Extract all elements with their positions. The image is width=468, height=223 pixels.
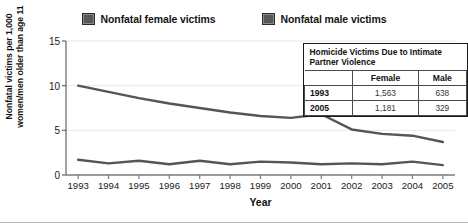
x-tick-label-2005: 2005	[432, 180, 453, 191]
x-tick-label-1994: 1994	[98, 180, 119, 191]
chart-legend: Nonfatal female victims Nonfatal male vi…	[0, 13, 468, 25]
table-row: 1993 1,563 638	[305, 86, 467, 101]
table-corner-cell	[305, 71, 353, 86]
x-tick-label-1995: 1995	[128, 180, 149, 191]
y-tick-label-15: 15	[49, 36, 60, 47]
x-tick-labels: 1993199419951996199719981999200020012002…	[66, 180, 455, 194]
table-cell-male-1993: 638	[418, 86, 466, 101]
x-axis-title: Year	[66, 196, 455, 208]
table-title-row: Homicide Victims Due to Intimate Partner…	[305, 44, 467, 71]
legend-item-female: Nonfatal female victims	[82, 13, 216, 25]
x-tick-label-2001: 2001	[311, 180, 332, 191]
x-tick-label-2004: 2004	[402, 180, 423, 191]
table-row-year-1993: 1993	[305, 86, 353, 101]
x-tick-label-2002: 2002	[341, 180, 362, 191]
inset-data-table: Homicide Victims Due to Intimate Partner…	[303, 43, 468, 117]
chart-figure: Nonfatal female victims Nonfatal male vi…	[0, 0, 468, 223]
legend-swatch-icon	[262, 13, 275, 25]
x-tick-label-2003: 2003	[371, 180, 392, 191]
table-col-male: Male	[418, 71, 466, 86]
legend-label-female: Nonfatal female victims	[101, 13, 216, 25]
table-col-female: Female	[353, 71, 418, 86]
series-line-male	[78, 160, 443, 165]
table-header-row: Female Male	[305, 71, 467, 86]
table-row-year-2005: 2005	[305, 101, 353, 116]
x-tick-label-1993: 1993	[67, 180, 88, 191]
table-title: Homicide Victims Due to Intimate Partner…	[305, 44, 467, 71]
legend-swatch-icon	[82, 13, 95, 25]
y-tick-label-0: 0	[54, 170, 60, 181]
y-axis-title: Nonfatal victims per 1,000 women/men old…	[4, 0, 25, 142]
x-tick-label-1999: 1999	[250, 180, 271, 191]
table-row: 2005 1,181 329	[305, 101, 467, 116]
legend-item-male: Nonfatal male victims	[262, 13, 387, 25]
homicide-victims-table: Homicide Victims Due to Intimate Partner…	[304, 44, 467, 116]
x-tick-label-2000: 2000	[280, 180, 301, 191]
table-cell-female-2005: 1,181	[353, 101, 418, 116]
x-tick-label-1997: 1997	[189, 180, 210, 191]
table-cell-male-2005: 329	[418, 101, 466, 116]
legend-label-male: Nonfatal male victims	[281, 13, 387, 25]
x-tick-label-1996: 1996	[159, 180, 180, 191]
y-tick-label-5: 5	[54, 125, 60, 136]
y-tick-label-10: 10	[49, 80, 60, 91]
table-cell-female-1993: 1,563	[353, 86, 418, 101]
x-tick-label-1998: 1998	[219, 180, 240, 191]
